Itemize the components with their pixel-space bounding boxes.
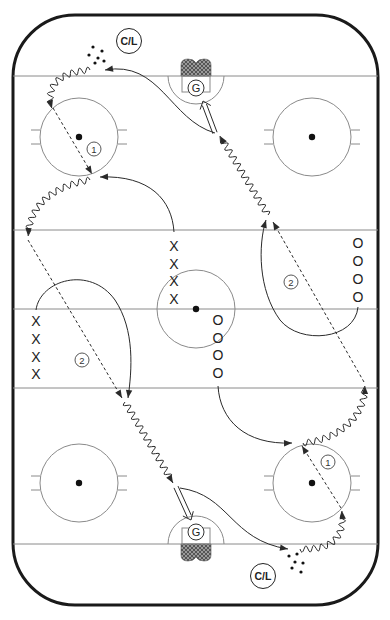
puck-icon xyxy=(91,45,94,48)
player-o: O xyxy=(353,271,364,287)
step-label-2: 2 xyxy=(75,353,89,367)
faceoff-dot xyxy=(76,134,82,140)
player-x: X xyxy=(169,238,179,254)
step-label-2: 2 xyxy=(284,275,298,289)
player-x: X xyxy=(31,349,41,365)
goalie-label: G xyxy=(192,82,201,94)
step-number: 1 xyxy=(91,144,96,155)
puck-icon xyxy=(102,59,105,62)
player-x: X xyxy=(31,313,41,329)
puck-icon xyxy=(100,49,103,52)
step-label-1: 1 xyxy=(87,142,101,156)
puck-icon xyxy=(299,570,302,573)
faceoff-dot xyxy=(76,480,82,486)
puck-icon xyxy=(295,552,298,555)
player-x: X xyxy=(169,273,179,289)
faceoff-dot xyxy=(309,480,315,486)
step-number: 1 xyxy=(325,457,330,468)
player-o: O xyxy=(353,253,364,269)
player-x: X xyxy=(31,331,41,347)
center-dot xyxy=(193,306,199,312)
puck-icon xyxy=(293,560,296,563)
step-label-1: 1 xyxy=(321,455,335,469)
coach-label: C/L xyxy=(255,570,273,582)
faceoff-dot xyxy=(309,134,315,140)
player-x: X xyxy=(31,366,41,382)
hockey-drill-diagram: GG XXXXXXXXOOOOOOOO 1122 C/LC/L xyxy=(0,0,390,620)
player-o: O xyxy=(213,330,224,346)
puck-icon xyxy=(96,56,99,59)
player-o: O xyxy=(213,347,224,363)
player-x: X xyxy=(169,256,179,272)
puck-icon xyxy=(93,61,96,64)
puck-icon xyxy=(290,566,293,569)
player-o: O xyxy=(353,235,364,251)
player-o: O xyxy=(213,312,224,328)
coach-top: C/L xyxy=(117,29,142,54)
step-number: 2 xyxy=(288,277,293,288)
player-o: O xyxy=(353,289,364,305)
step-number: 2 xyxy=(79,355,84,366)
player-o: O xyxy=(213,365,224,381)
player-x: X xyxy=(169,291,179,307)
puck-icon xyxy=(87,53,90,56)
puck-icon xyxy=(287,554,290,557)
coach-label: C/L xyxy=(121,35,139,47)
goalie-label: G xyxy=(192,526,201,538)
puck-icon xyxy=(301,561,304,564)
coach-bottom: C/L xyxy=(251,564,276,589)
